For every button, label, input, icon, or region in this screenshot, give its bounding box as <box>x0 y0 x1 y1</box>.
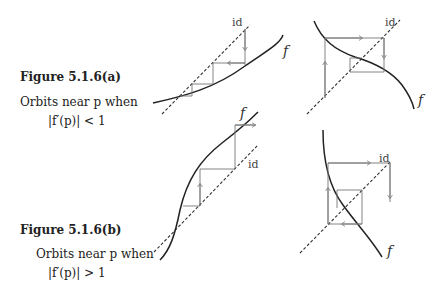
id-label: id <box>379 152 390 165</box>
f-curve <box>153 35 283 103</box>
f-curve <box>160 112 258 260</box>
f-label: f <box>417 92 426 108</box>
f-label: f <box>282 43 291 59</box>
f-curve <box>314 21 414 109</box>
f-label: f <box>239 105 248 121</box>
diagram-b-left: id f <box>154 105 259 260</box>
diagram-a-right: id f <box>307 16 426 114</box>
diagram-b-right: id f <box>300 130 395 259</box>
id-label: id <box>248 158 259 171</box>
figure-diagrams: id f id f id <box>0 0 446 286</box>
id-label: id <box>232 16 243 29</box>
f-curve <box>323 130 382 257</box>
identity-line <box>154 145 258 252</box>
id-label: id <box>385 16 396 29</box>
f-label: f <box>386 243 395 259</box>
diagram-a-left: id f <box>153 16 291 114</box>
identity-line <box>162 25 250 114</box>
